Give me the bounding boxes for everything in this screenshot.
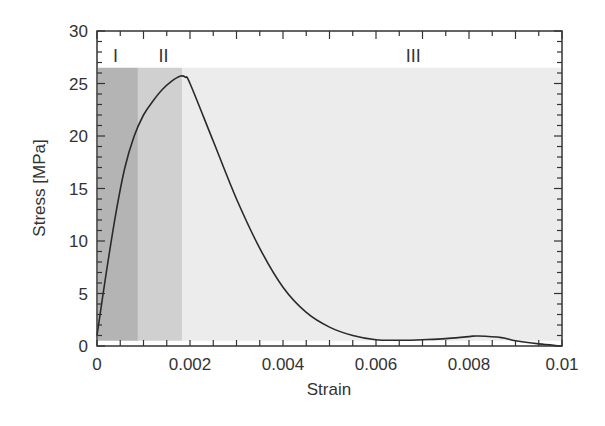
x-tick-label: 0.006 (355, 355, 398, 374)
x-axis-label: Strain (307, 380, 351, 399)
region-label-i: I (113, 46, 118, 66)
y-tick-label: 10 (69, 232, 88, 251)
y-axis-tick-labels: 051015202530 (69, 22, 88, 356)
stress-strain-chart: IIIIII 00.0020.0040.0060.0080.01 0510152… (0, 0, 605, 426)
x-tick-label: 0.008 (448, 355, 491, 374)
y-tick-label: 15 (69, 180, 88, 199)
x-tick-label: 0.002 (169, 355, 212, 374)
y-axis-label: Stress [MPa] (30, 139, 49, 236)
y-tick-label: 30 (69, 22, 88, 41)
y-tick-label: 0 (79, 337, 88, 356)
region-label-ii: II (158, 46, 168, 66)
region-band-ii (138, 68, 182, 341)
y-tick-label: 25 (69, 75, 88, 94)
x-tick-label: 0.004 (262, 355, 305, 374)
region-bands (98, 68, 561, 341)
x-tick-label: 0.01 (545, 355, 578, 374)
x-axis-tick-labels: 00.0020.0040.0060.0080.01 (92, 355, 578, 374)
region-labels: IIIIII (113, 46, 421, 66)
x-tick-label: 0 (92, 355, 101, 374)
y-tick-label: 5 (79, 285, 88, 304)
region-label-iii: III (406, 46, 421, 66)
y-tick-label: 20 (69, 127, 88, 146)
